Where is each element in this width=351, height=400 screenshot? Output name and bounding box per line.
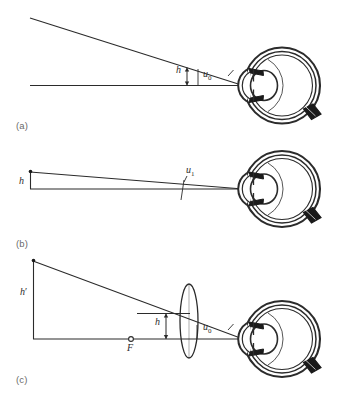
panel-label-b: (b) bbox=[16, 238, 28, 249]
optics-figure bbox=[0, 0, 351, 400]
panel-label-a: (a) bbox=[16, 120, 28, 131]
label-focal-point-F-c: F bbox=[127, 342, 133, 353]
chief-ray bbox=[30, 172, 243, 189]
object-height-marker bbox=[137, 314, 190, 340]
object-height-marker bbox=[185, 68, 189, 86]
object-height-marker bbox=[29, 170, 33, 189]
image-height-marker bbox=[32, 259, 36, 339]
label-object-height-h-b: h bbox=[19, 175, 24, 186]
panel-c bbox=[32, 259, 321, 377]
label-angle-u0-a: u0 bbox=[203, 68, 212, 82]
schematic-eye-cross-section bbox=[238, 301, 321, 377]
label-angle-u1-b: u1 bbox=[186, 164, 195, 178]
panel-b bbox=[29, 151, 321, 227]
label-object-height-h-c: h bbox=[155, 316, 160, 327]
label-angle-u0-c: u0 bbox=[203, 321, 212, 335]
schematic-eye-cross-section bbox=[238, 48, 321, 124]
angle-marker-u1 bbox=[181, 176, 187, 200]
label-object-height-h-a: h bbox=[176, 64, 181, 75]
panel-label-c: (c) bbox=[16, 374, 28, 385]
focal-point-marker bbox=[129, 337, 134, 342]
schematic-eye-cross-section bbox=[238, 151, 321, 227]
label-image-height-h-prime-c: h′ bbox=[20, 286, 27, 297]
